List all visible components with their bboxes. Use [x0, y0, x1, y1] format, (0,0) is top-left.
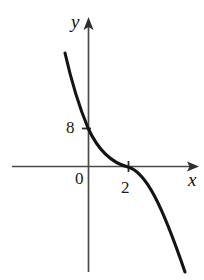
curve-path	[65, 53, 185, 272]
y-tick-label-8: 8	[66, 119, 75, 136]
x-tick-label-2: 2	[121, 179, 130, 196]
x-axis-label: x	[188, 170, 196, 189]
graph-figure: y x 0 8 2	[0, 0, 204, 280]
y-axis-label: y	[71, 12, 79, 31]
plot-canvas	[0, 0, 204, 280]
origin-label: 0	[75, 170, 84, 187]
